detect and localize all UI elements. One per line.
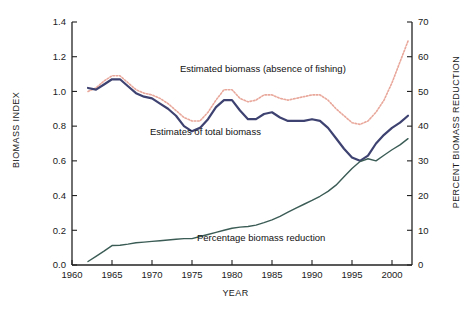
svg-text:0.8: 0.8 — [53, 120, 66, 131]
svg-text:60: 60 — [418, 51, 429, 62]
svg-text:20: 20 — [418, 190, 429, 201]
svg-text:0.2: 0.2 — [53, 225, 66, 236]
annotation-estimated-biomass: Estimated biomass (absence of fishing) — [180, 63, 346, 74]
svg-text:50: 50 — [418, 86, 429, 97]
annotation-total-biomass: Estimates of total biomass — [150, 126, 261, 137]
svg-text:1.0: 1.0 — [53, 86, 66, 97]
svg-text:1.4: 1.4 — [53, 16, 66, 27]
svg-text:2000: 2000 — [381, 269, 402, 280]
annotation-percentage-reduction: Percentage biomass reduction — [197, 232, 325, 243]
svg-text:1995: 1995 — [341, 269, 362, 280]
svg-text:10: 10 — [418, 225, 429, 236]
svg-text:1960: 1960 — [61, 269, 82, 280]
series-line-2 — [88, 139, 408, 262]
chart-figure: 0.00.20.40.60.81.01.21.40102030405060701… — [0, 0, 471, 311]
svg-text:40: 40 — [418, 120, 429, 131]
axis-frame — [72, 22, 412, 265]
svg-text:30: 30 — [418, 155, 429, 166]
axis-ticks — [72, 22, 412, 265]
svg-text:70: 70 — [418, 16, 429, 27]
svg-text:1965: 1965 — [101, 269, 122, 280]
y-axis-left-title: BIOMASS INDEX — [11, 70, 21, 190]
svg-text:1975: 1975 — [181, 269, 202, 280]
svg-text:0: 0 — [418, 259, 423, 270]
data-series-group — [88, 41, 408, 261]
svg-text:1970: 1970 — [141, 269, 162, 280]
svg-text:1990: 1990 — [301, 269, 322, 280]
svg-text:1980: 1980 — [221, 269, 242, 280]
svg-text:1.2: 1.2 — [53, 51, 66, 62]
x-axis-title: YEAR — [0, 288, 471, 298]
y-axis-right-title: PERCENT BIOMASS REDUCTION — [451, 52, 461, 212]
svg-text:0.6: 0.6 — [53, 155, 66, 166]
chart-plot-area: 0.00.20.40.60.81.01.21.40102030405060701… — [0, 0, 471, 311]
svg-text:0.4: 0.4 — [53, 190, 66, 201]
series-line-0 — [88, 41, 408, 124]
svg-text:1985: 1985 — [261, 269, 282, 280]
series-line-1 — [88, 79, 408, 161]
